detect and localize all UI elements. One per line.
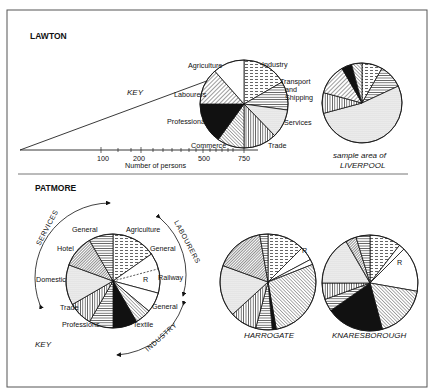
harrogate-r-marker: R [302, 246, 307, 255]
patmore-key-label: KEY [35, 340, 52, 349]
patmore-section: PATMORE KEY SERVICES LABOURERS INDUSTRY … [35, 183, 418, 355]
axis-label: Number of persons [125, 161, 187, 170]
figure: LAWTON KEY 100 200 500 750 Numb [0, 0, 433, 392]
harrogate-caption: HARROGATE [244, 331, 295, 340]
label-agriculture: Agriculture [126, 225, 160, 234]
patmore-title: PATMORE [35, 183, 77, 193]
tick-100: 100 [97, 154, 109, 163]
label-industry: Industry [262, 60, 288, 69]
label-professional: Professional [167, 117, 207, 126]
label-agriculture: Agriculture [188, 61, 222, 70]
label-r: R [143, 275, 148, 284]
tick-500: 500 [198, 154, 210, 163]
label-labourers: Labourers [174, 90, 207, 99]
lawton-key-label: KEY [127, 88, 144, 97]
label-hotel: Hotel [57, 244, 74, 253]
knaresborough-r-marker: R [397, 258, 402, 267]
labourers-label: LABOURERS [173, 219, 202, 264]
lawton-title: LAWTON [30, 31, 67, 41]
label-general-services: General [72, 225, 98, 234]
knaresborough-caption: KNARESBOROUGH [332, 331, 406, 340]
label-general-industry: General [152, 302, 178, 311]
label-domestic: Domestic [36, 275, 66, 284]
label-railway: Railway [158, 273, 184, 282]
label-transport-3: Shipping [285, 93, 313, 102]
liverpool-pie [322, 63, 402, 143]
label-textile: Textile [133, 320, 153, 329]
services-label: SERVICES [35, 208, 60, 246]
tick-750: 750 [238, 154, 250, 163]
label-commerce: Commerce [191, 141, 226, 150]
label-professions: Professions [62, 320, 100, 329]
liverpool-caption-2: LIVERPOOL [340, 161, 385, 170]
label-trade: Trade [60, 303, 79, 312]
label-services: Services [284, 118, 312, 127]
lawton-section: LAWTON KEY 100 200 500 750 Numb [20, 31, 402, 170]
lawton-key-pie [200, 60, 288, 148]
label-general-labourers: General [150, 244, 176, 253]
liverpool-caption-1: sample area of [333, 151, 387, 160]
label-trade: Trade [268, 141, 287, 150]
knaresborough-pie [322, 235, 418, 331]
